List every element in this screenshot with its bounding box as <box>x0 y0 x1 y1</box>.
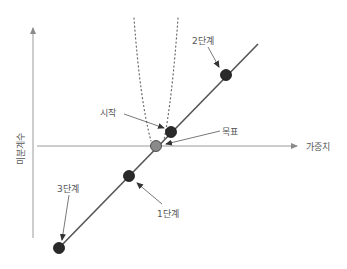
point-step2 <box>221 70 232 81</box>
label-goal: 목표 <box>222 127 238 137</box>
point-goal <box>151 141 162 152</box>
gradient-descent-diagram: 가중치 미분계수 시작 목표 1단계 2단계 3단계 <box>0 0 347 269</box>
step1-pointer <box>137 183 162 204</box>
label-step1: 1단계 <box>157 208 179 219</box>
label-step2: 2단계 <box>192 35 214 46</box>
step2-pointer <box>208 47 219 67</box>
label-step3: 3단계 <box>57 183 79 194</box>
point-step1 <box>124 171 135 182</box>
start-pointer <box>124 114 164 128</box>
step3-pointer <box>62 195 69 240</box>
point-step3 <box>54 243 65 254</box>
x-axis-label: 가중치 <box>306 141 330 152</box>
loss-curve-dotted <box>134 18 178 141</box>
point-start <box>166 127 177 138</box>
y-axis-label: 미분계수 <box>15 133 26 165</box>
label-start: 시작 <box>100 108 116 118</box>
